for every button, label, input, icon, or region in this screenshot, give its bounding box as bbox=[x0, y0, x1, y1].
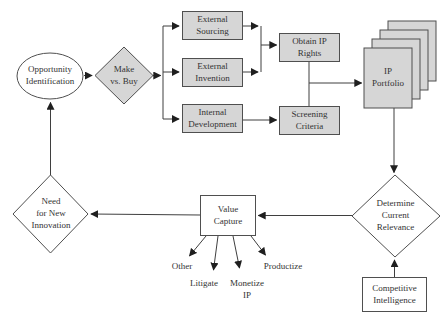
need-for-new-innovation-diamond bbox=[13, 175, 88, 253]
opportunity-identification-ellipse bbox=[17, 53, 83, 99]
node-internal-development: Internal Development bbox=[182, 104, 243, 133]
ip-portfolio-page-front bbox=[364, 48, 412, 108]
node-competitive-intelligence: Competitive Intelligence bbox=[362, 277, 427, 312]
determine-current-relevance-diamond bbox=[352, 175, 440, 257]
node-obtain-ip-rights: Obtain IP Rights bbox=[279, 33, 340, 62]
ip-portfolio-document-stack bbox=[364, 21, 436, 108]
node-screening-criteria: Screening Criteria bbox=[279, 106, 340, 135]
node-external-sourcing: External Sourcing bbox=[182, 11, 243, 40]
flowchart-canvas: External Sourcing External Invention Int… bbox=[0, 0, 447, 320]
edge-value-capture-to-need-innovation bbox=[91, 214, 200, 215]
node-external-invention: External Invention bbox=[182, 58, 243, 87]
edge-value-capture-to-productize bbox=[251, 236, 266, 255]
flowchart-shapes-and-connectors bbox=[0, 0, 447, 320]
node-value-capture: Value Capture bbox=[200, 195, 256, 236]
edge-value-capture-to-litigate bbox=[214, 236, 219, 270]
edge-value-capture-to-monetize-ip bbox=[233, 236, 240, 268]
make-vs-buy-diamond bbox=[95, 47, 153, 104]
edge-value-capture-to-other bbox=[190, 236, 207, 256]
